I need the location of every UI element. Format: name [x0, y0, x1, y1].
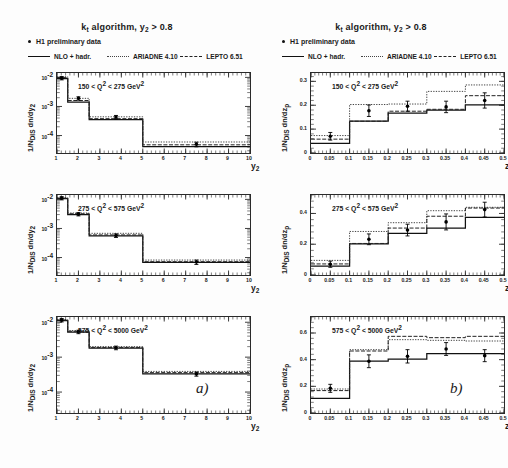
gev-exponent: 2	[141, 80, 145, 87]
y-tick-exponent: -3	[47, 222, 53, 229]
solid-line-icon	[28, 56, 50, 57]
x-tick-label: 0.2	[384, 277, 391, 283]
y-tick-label: 10-4	[34, 130, 53, 140]
x-tick-label: 0.1	[345, 155, 352, 161]
y-label-pre: 1/N	[26, 140, 35, 152]
y-tick-label: 10-3	[34, 100, 53, 110]
x-tick-label: 2	[76, 155, 79, 161]
x-tick-label: 4	[119, 415, 122, 421]
data-point-marker	[195, 372, 199, 376]
data-point-marker	[367, 359, 371, 363]
y-label-var: 2	[29, 364, 36, 368]
x-tick-label: 9	[226, 155, 229, 161]
x-tick-label: 0.2	[384, 155, 391, 161]
x-tick-label: 0.05	[324, 415, 334, 421]
x-tick-label: 1	[55, 415, 58, 421]
y-label-pre: 1/N	[280, 140, 289, 152]
x-tick-label: 0.3	[422, 155, 429, 161]
x-tick-label: 1	[55, 277, 58, 283]
y-tick-label: 10-3	[34, 222, 53, 232]
x-tick-label: 0.45	[479, 277, 489, 283]
data-point-marker	[77, 212, 81, 216]
x-tick-label: 8	[205, 155, 208, 161]
q2-range-pre: 575 < Q	[78, 327, 102, 334]
y-axis-label: 1/NDIS dn/dy2	[26, 104, 36, 152]
x-tick-label: 5	[140, 277, 143, 283]
x-tick-label: 0.05	[324, 277, 334, 283]
y-tick-label: 10-4	[34, 252, 53, 262]
y-tick-exponent: -4	[47, 252, 53, 259]
x-tick-label: 0.45	[479, 155, 489, 161]
y-label-var: 2	[29, 104, 36, 108]
figure-column-a: kt algorithm, y2 > 0.8 H1 preliminary da…	[0, 0, 254, 468]
x-tick-label: 0.2	[384, 415, 391, 421]
panel-b3: 00.050.10.150.20.250.30.350.40.450.500.2…	[254, 312, 508, 440]
data-point-marker	[329, 134, 333, 138]
legend-entry-ariadne: ARIADNE 4.10	[361, 53, 434, 60]
y-label-post: dn/dy	[26, 229, 35, 251]
x-tick-label: 7	[183, 155, 186, 161]
data-point-marker	[406, 104, 410, 108]
x-tick-label: 7	[183, 415, 186, 421]
solid-line-icon	[282, 56, 304, 57]
x-tick-label: 0	[309, 277, 312, 283]
y-label-post: dn/dy	[26, 107, 35, 129]
data-point-marker	[329, 387, 333, 391]
legend-label-nlo: NLO + hadr.	[308, 53, 345, 60]
legend-models-right: NLO + hadr. ARIADNE 4.10 LEPTO 6.51	[282, 53, 500, 60]
part-label-b: b)	[450, 380, 463, 397]
q2-range-label: 575 < Q2 < 5000 GeV2	[78, 324, 148, 334]
x-tick-label: 0.4	[461, 277, 468, 283]
q2-range-mid: < 275 GeV	[106, 83, 141, 90]
y-tick-label: 10-3	[34, 351, 53, 361]
y-label-post: dn/dz	[280, 230, 289, 252]
x-tick-label: 6	[162, 155, 165, 161]
y-tick-label: 10-4	[34, 386, 53, 396]
x-tick-label: 0.45	[479, 415, 489, 421]
q2-range-mid: < 5000 GeV	[360, 327, 398, 334]
data-point-marker	[195, 143, 199, 147]
y-tick-label: 10-2	[34, 193, 53, 203]
data-point-marker	[367, 238, 371, 242]
legend-entry-nlo: NLO + hadr.	[282, 53, 361, 60]
gev-exponent: 2	[395, 80, 399, 87]
x-tick-label: 0.35	[440, 155, 450, 161]
q2-range-pre: 150 < Q	[332, 83, 356, 90]
y-axis-label: 1/NDIS dn/dzp	[280, 364, 290, 412]
y-axis-label: 1/NDIS dn/dy2	[26, 226, 36, 274]
title-algorithm-text: algorithm, y	[89, 22, 145, 32]
q2-range-pre: 275 < Q	[78, 205, 102, 212]
y-tick-label: 0.4	[286, 356, 307, 362]
y-tick-exponent: -3	[47, 351, 53, 358]
y-label-pre: 1/N	[26, 400, 35, 412]
x-tick-label: 0.05	[324, 155, 334, 161]
y-tick-label: 0.6	[286, 329, 307, 335]
series-step-dashed	[311, 336, 504, 390]
y-tick-exponent: -2	[47, 316, 53, 323]
x-tick-label: 3	[97, 277, 100, 283]
y-label-dis: DIS	[29, 129, 36, 140]
x-tick-label: 9	[226, 277, 229, 283]
x-tick-label: 0.1	[345, 277, 352, 283]
x-tick-label: 0	[309, 415, 312, 421]
y-label-post: dn/dy	[26, 367, 35, 389]
q2-range-label: 150 < Q2 < 275 GeV2	[78, 80, 144, 90]
x-tick-label: 0.4	[461, 155, 468, 161]
x-tick-label: 3	[97, 155, 100, 161]
legend-entry-ariadne: ARIADNE 4.10	[107, 53, 180, 60]
y-label-dis: DIS	[283, 251, 290, 262]
legend-label-lepto: LEPTO 6.51	[206, 53, 243, 60]
y-label-post: dn/dz	[280, 108, 289, 130]
legend-entry-lepto: LEPTO 6.51	[434, 53, 500, 60]
x-tick-label: 0.1	[345, 415, 352, 421]
data-point-marker	[195, 260, 199, 264]
legend-entry-nlo: NLO + hadr.	[28, 53, 107, 60]
x-tick-label: 0.15	[363, 415, 373, 421]
y-label-var: p	[283, 364, 290, 368]
x-tick-label: 1	[55, 155, 58, 161]
y-axis-label: 1/NDIS dn/dzp	[280, 104, 290, 152]
x-tick-label: 4	[119, 155, 122, 161]
legend-data-label: H1 preliminary data	[290, 38, 355, 45]
y-tick-label: 10-2	[34, 316, 53, 326]
gev-exponent: 2	[395, 202, 399, 209]
